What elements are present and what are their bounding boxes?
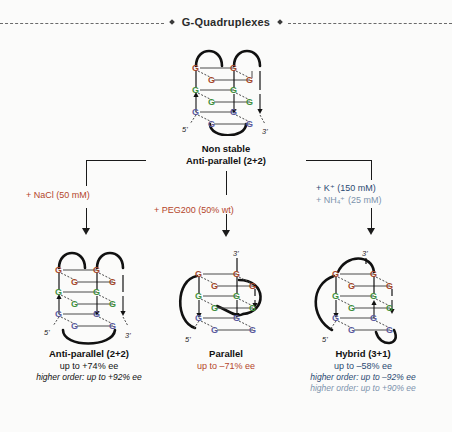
antiparallel-quadruplex-icon: 5' 3' G G G G G G G G G G G G	[170, 44, 282, 136]
svg-text:G: G	[109, 321, 116, 331]
svg-text:G: G	[370, 313, 377, 323]
connector-left-vertical	[86, 160, 87, 186]
svg-text:G: G	[233, 291, 240, 301]
svg-text:5': 5'	[322, 335, 328, 344]
svg-text:G: G	[370, 269, 377, 279]
svg-text:G: G	[211, 325, 218, 335]
svg-text:G: G	[55, 287, 62, 297]
svg-text:G: G	[55, 309, 62, 319]
result-title-right: Hybrid (3+1)	[288, 348, 438, 360]
result-structure-right: 3'	[288, 242, 438, 346]
svg-text:G: G	[246, 97, 253, 107]
svg-text:G: G	[230, 107, 237, 117]
parent-label: Non stable Anti-parallel (2+2)	[146, 143, 306, 167]
condition-center-line1: + PEG200 (50% wt)	[154, 205, 234, 217]
svg-text:G: G	[370, 291, 377, 301]
svg-text:G: G	[93, 309, 100, 319]
arrow-left-shaft	[86, 208, 87, 230]
connector-left-horizontal	[86, 160, 146, 161]
svg-text:G: G	[208, 119, 215, 129]
svg-text:G: G	[249, 281, 256, 291]
svg-text:G: G	[71, 321, 78, 331]
header-rule-left	[0, 23, 164, 24]
svg-text:3': 3'	[262, 127, 268, 136]
svg-text:G: G	[109, 299, 116, 309]
result-value-center: up to –71% ee	[151, 360, 301, 372]
svg-text:G: G	[93, 265, 100, 275]
result-caption-center: Parallel up to –71% ee	[151, 348, 301, 372]
result-column-center: 3'	[151, 242, 301, 372]
result-note-right-1: higher order: up to –92% ee	[288, 372, 438, 383]
result-column-right: 3'	[288, 242, 438, 394]
arrow-center-head-icon	[222, 230, 230, 237]
header-rule-right	[288, 23, 452, 24]
svg-text:G: G	[246, 75, 253, 85]
svg-text:G: G	[230, 63, 237, 73]
parent-structure: 5' 3' G G G G G G G G G G G G	[170, 44, 282, 136]
svg-text:G: G	[386, 281, 393, 291]
header: G-Quadruplexes	[0, 12, 452, 32]
svg-text:G: G	[211, 303, 218, 313]
arrow-right-shaft	[371, 208, 372, 230]
connector-center-vertical	[226, 171, 227, 195]
svg-text:G: G	[249, 325, 256, 335]
svg-text:G: G	[208, 75, 215, 85]
svg-text:G: G	[55, 265, 62, 275]
svg-text:G: G	[332, 269, 339, 279]
antiparallel-quadruplex-icon: 5' 3' G G G G G G G G G G G G	[14, 242, 164, 346]
result-note-right-2: higher order: up to +90% ee	[288, 383, 438, 394]
result-caption-left: Anti-parallel (2+2) up to +74% ee higher…	[14, 348, 164, 383]
result-caption-right: Hybrid (3+1) up to –58% ee higher order:…	[288, 348, 438, 394]
diagram-canvas: G-Quadruplexes	[0, 0, 452, 432]
svg-text:G: G	[211, 281, 218, 291]
svg-text:G: G	[230, 85, 237, 95]
connector-right-horizontal	[306, 160, 372, 161]
svg-text:G: G	[332, 313, 339, 323]
svg-text:5': 5'	[44, 328, 50, 337]
arrow-left-head-icon	[82, 228, 90, 235]
parent-label-line1: Non stable	[146, 143, 306, 155]
svg-text:G: G	[71, 299, 78, 309]
result-note-left-1: higher order: up to +92% ee	[14, 372, 164, 383]
svg-text:G: G	[109, 277, 116, 287]
result-value-right: up to –58% ee	[288, 360, 438, 372]
svg-text:G: G	[192, 107, 199, 117]
svg-text:G: G	[348, 303, 355, 313]
svg-text:G: G	[71, 277, 78, 287]
svg-text:3': 3'	[125, 331, 131, 340]
connector-right-vertical	[371, 160, 372, 180]
svg-text:5': 5'	[182, 125, 188, 134]
condition-right-line1: + K⁺ (150 mM)	[316, 183, 376, 195]
result-structure-center: 3'	[151, 242, 301, 346]
svg-text:G: G	[195, 291, 202, 301]
hybrid-quadruplex-icon: 3'	[288, 242, 438, 346]
svg-text:G: G	[192, 63, 199, 73]
svg-text:G: G	[386, 303, 393, 313]
svg-text:G: G	[93, 287, 100, 297]
result-title-left: Anti-parallel (2+2)	[14, 348, 164, 360]
condition-right-line2: + NH₄⁺ (25 mM)	[316, 195, 381, 207]
result-title-center: Parallel	[151, 348, 301, 360]
arrow-right-head-icon	[367, 228, 375, 235]
svg-text:3': 3'	[362, 249, 368, 258]
condition-left-line1: + NaCl (50 mM)	[26, 190, 90, 202]
result-column-left: 5' 3' G G G G G G G G G G G G Anti-par	[14, 242, 164, 383]
svg-text:G: G	[208, 97, 215, 107]
svg-text:G: G	[332, 291, 339, 301]
svg-text:3': 3'	[233, 249, 239, 258]
svg-text:G: G	[192, 85, 199, 95]
svg-text:G: G	[348, 281, 355, 291]
result-structure-left: 5' 3' G G G G G G G G G G G G	[14, 242, 164, 346]
diamond-bullet-icon	[169, 19, 175, 25]
svg-text:G: G	[246, 119, 253, 129]
parent-label-line2: Anti-parallel (2+2)	[146, 155, 306, 167]
svg-text:G: G	[386, 325, 393, 335]
page-title: G-Quadruplexes	[180, 16, 272, 28]
svg-text:G: G	[233, 269, 240, 279]
svg-text:G: G	[249, 303, 256, 313]
svg-text:5': 5'	[185, 335, 191, 344]
svg-text:G: G	[195, 313, 202, 323]
svg-text:G: G	[233, 313, 240, 323]
result-value-left: up to +74% ee	[14, 360, 164, 372]
svg-text:G: G	[348, 325, 355, 335]
